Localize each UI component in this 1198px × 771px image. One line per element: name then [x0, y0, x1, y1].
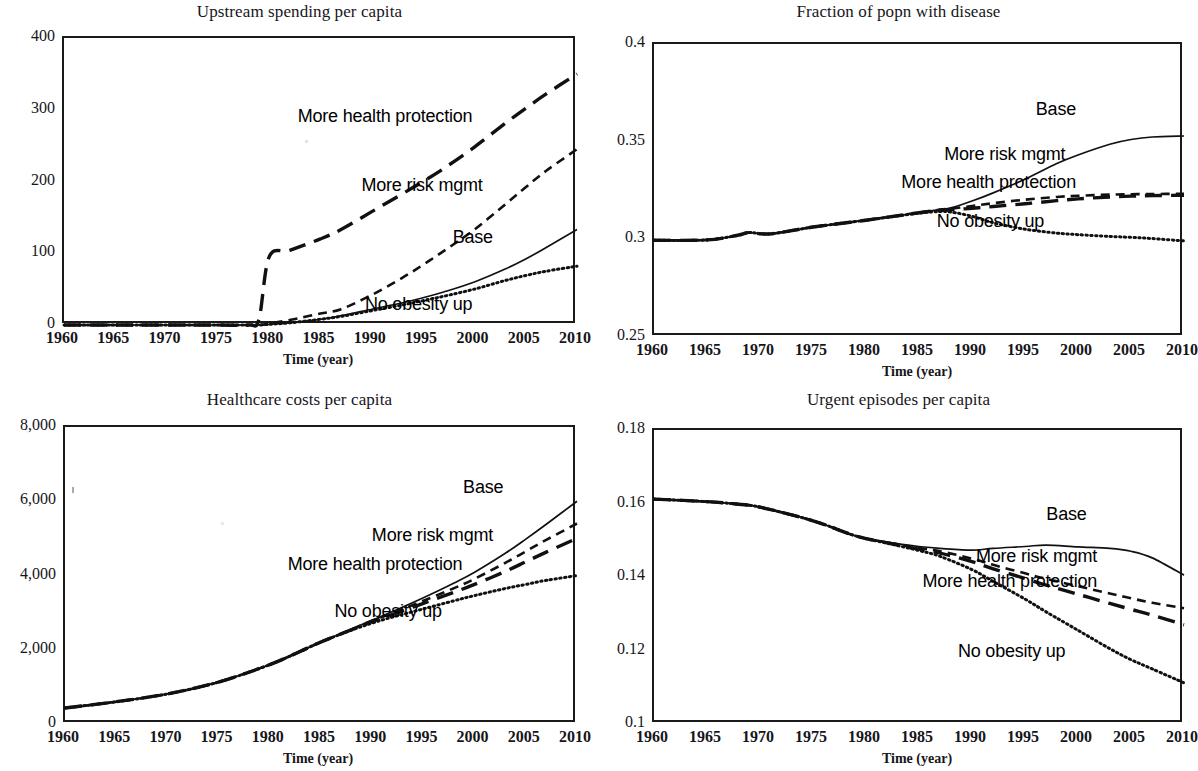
y-tick-label: 8,000 [0, 416, 56, 434]
y-tick-label: 0.16 [599, 493, 645, 511]
series-label-more-risk-mgmt: More risk mgmt [944, 144, 1065, 165]
x-tick-label: 1975 [795, 728, 827, 746]
series-line [65, 524, 577, 709]
x-tick-label: 1995 [405, 728, 437, 746]
x-tick-label: 1990 [354, 728, 386, 746]
x-tick-label: 1995 [405, 329, 437, 347]
series-label-no-obesity-up: No obesity up [365, 293, 472, 314]
x-tick-label: 1965 [689, 341, 721, 359]
panel-healthcare-costs: Healthcare costs per capita 02,0004,0006… [0, 385, 599, 771]
x-tick-label: 1990 [954, 341, 986, 359]
series-line [654, 195, 1184, 240]
x-tick-label: 2000 [457, 728, 489, 746]
series-label-no-obesity-up: No obesity up [937, 210, 1044, 231]
y-tick-label: 100 [0, 242, 55, 260]
x-tick-label: 1965 [98, 728, 130, 746]
four-panel-figure: Upstream spending per capita 01002003004… [0, 0, 1198, 771]
x-axis-title: Time (year) [283, 352, 353, 368]
panel-title: Healthcare costs per capita [0, 390, 599, 410]
y-tick-label: 300 [0, 99, 55, 117]
y-tick-label: 4,000 [0, 565, 56, 583]
series-line [654, 499, 1184, 683]
x-tick-label: 1960 [636, 341, 668, 359]
y-tick-label: 0.14 [599, 566, 645, 584]
y-tick-label: 0.3 [599, 228, 645, 246]
plot-lines [65, 427, 577, 724]
panel-title: Urgent episodes per capita [629, 390, 1168, 410]
x-tick-label: 1975 [200, 329, 232, 347]
y-tick-label: 400 [0, 27, 55, 45]
plot-lines [654, 430, 1184, 724]
x-tick-label: 2010 [559, 728, 591, 746]
x-tick-label: 1985 [303, 728, 335, 746]
x-tick-label: 2010 [559, 329, 591, 347]
x-tick-label: 1980 [251, 329, 283, 347]
x-tick-label: 1975 [201, 728, 233, 746]
y-tick-label: 6,000 [0, 490, 56, 508]
x-tick-label: 1970 [149, 728, 181, 746]
series-label-no-obesity-up: No obesity up [334, 601, 441, 622]
x-tick-label: 1960 [46, 329, 78, 347]
series-label-more-health-protection: More health protection [288, 554, 463, 575]
panel-upstream-spending: Upstream spending per capita 01002003004… [0, 0, 599, 385]
y-tick-label: 200 [0, 171, 55, 189]
x-tick-label: 2000 [1060, 728, 1092, 746]
plot-lines [64, 38, 577, 325]
x-tick-label: 1980 [848, 728, 880, 746]
series-label-no-obesity-up: No obesity up [958, 641, 1065, 662]
x-tick-label: 2000 [1060, 341, 1092, 359]
series-label-base: Base [453, 226, 493, 247]
series-label-more-risk-mgmt: More risk mgmt [361, 174, 482, 195]
x-tick-label: 2005 [508, 728, 540, 746]
x-axis-title: Time (year) [882, 364, 952, 380]
series-line [65, 576, 577, 709]
x-tick-label: 1960 [47, 728, 79, 746]
y-tick-label: 2,000 [0, 639, 56, 657]
series-label-base: Base [1046, 504, 1086, 525]
scan-artifact [221, 522, 224, 525]
x-axis-title: Time (year) [283, 751, 353, 767]
x-tick-label: 1965 [97, 329, 129, 347]
y-tick-label: 0.18 [599, 419, 645, 437]
x-tick-label: 2010 [1166, 728, 1198, 746]
x-tick-label: 2005 [508, 329, 540, 347]
series-line [654, 499, 1184, 575]
x-tick-label: 1960 [636, 728, 668, 746]
x-tick-label: 1985 [901, 341, 933, 359]
x-tick-label: 2010 [1166, 341, 1198, 359]
x-tick-label: 1970 [149, 329, 181, 347]
series-label-more-health-protection: More health protection [901, 171, 1076, 192]
x-tick-label: 1985 [303, 329, 335, 347]
x-tick-label: 1995 [1007, 341, 1039, 359]
x-tick-label: 2000 [456, 329, 488, 347]
series-line [654, 499, 1184, 608]
x-tick-label: 1990 [354, 329, 386, 347]
series-line [654, 499, 1184, 625]
x-axis-title: Time (year) [882, 751, 952, 767]
panel-fraction-with-disease: Fraction of popn with disease 0.250.30.3… [599, 0, 1198, 385]
plot-area [652, 428, 1182, 722]
series-label-more-health-protection: More health protection [298, 106, 473, 127]
x-tick-label: 1970 [742, 728, 774, 746]
x-tick-label: 1980 [252, 728, 284, 746]
x-tick-label: 1970 [742, 341, 774, 359]
series-label-base: Base [463, 477, 503, 498]
x-tick-label: 2005 [1113, 728, 1145, 746]
panel-urgent-episodes: Urgent episodes per capita 0.10.120.140.… [599, 385, 1198, 771]
series-line [64, 230, 577, 325]
x-tick-label: 1975 [795, 341, 827, 359]
series-line [65, 501, 577, 708]
y-tick-label: 0.35 [599, 131, 645, 149]
x-tick-label: 1965 [689, 728, 721, 746]
series-label-more-risk-mgmt: More risk mgmt [976, 545, 1097, 566]
scan-artifact [305, 140, 308, 143]
panel-title: Upstream spending per capita [0, 2, 599, 22]
plot-area [62, 36, 575, 323]
x-tick-label: 1990 [954, 728, 986, 746]
x-tick-label: 1980 [848, 341, 880, 359]
x-tick-label: 2005 [1113, 341, 1145, 359]
scan-artifact [72, 487, 74, 493]
panel-title: Fraction of popn with disease [629, 2, 1168, 22]
y-tick-label: 0.12 [599, 640, 645, 658]
series-label-base: Base [1036, 99, 1076, 120]
